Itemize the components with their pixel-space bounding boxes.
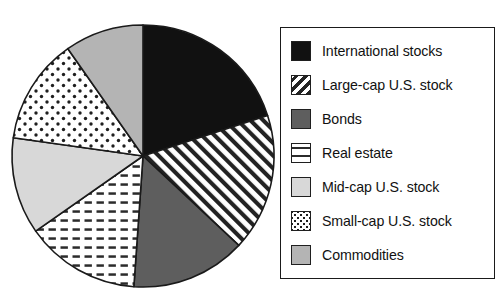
chart-legend: International stocks Large-cap U.S. stoc… xyxy=(280,27,495,279)
horizontal-dash-swatch xyxy=(291,143,311,163)
pie-chart-plot-area xyxy=(0,0,290,302)
legend-item-large-cap-us-stock[interactable]: Large-cap U.S. stock xyxy=(291,70,494,100)
legend-item-label: Mid-cap U.S. stock xyxy=(322,180,439,195)
solid-light-gray-swatch xyxy=(291,177,311,197)
legend-item-international-stocks[interactable]: International stocks xyxy=(291,36,494,66)
pie-chart-figure: International stocks Large-cap U.S. stoc… xyxy=(0,0,504,302)
legend-item-label: Bonds xyxy=(322,112,362,127)
legend-item-bonds[interactable]: Bonds xyxy=(291,104,494,134)
legend-item-label: Real estate xyxy=(322,146,393,161)
dotted-swatch xyxy=(291,211,311,231)
pie-slices-group xyxy=(12,25,274,287)
legend-item-mid-cap-us-stock[interactable]: Mid-cap U.S. stock xyxy=(291,172,494,202)
legend-item-label: Large-cap U.S. stock xyxy=(322,78,452,93)
solid-dark-gray-swatch xyxy=(291,109,311,129)
diagonal-hatch-swatch xyxy=(291,75,311,95)
legend-item-label: Commodities xyxy=(322,248,404,263)
legend-item-real-estate[interactable]: Real estate xyxy=(291,138,494,168)
solid-mid-gray-swatch xyxy=(291,245,311,265)
pie-chart-svg xyxy=(0,0,290,302)
legend-item-small-cap-us-stock[interactable]: Small-cap U.S. stock xyxy=(291,206,494,236)
legend-item-label: International stocks xyxy=(322,44,442,59)
legend-item-label: Small-cap U.S. stock xyxy=(322,214,452,229)
solid-black-swatch xyxy=(291,41,311,61)
legend-item-commodities[interactable]: Commodities xyxy=(291,240,494,270)
